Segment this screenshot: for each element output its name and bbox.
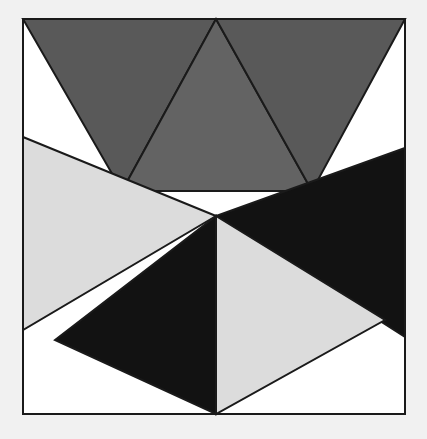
artwork-canvas bbox=[0, 0, 427, 439]
